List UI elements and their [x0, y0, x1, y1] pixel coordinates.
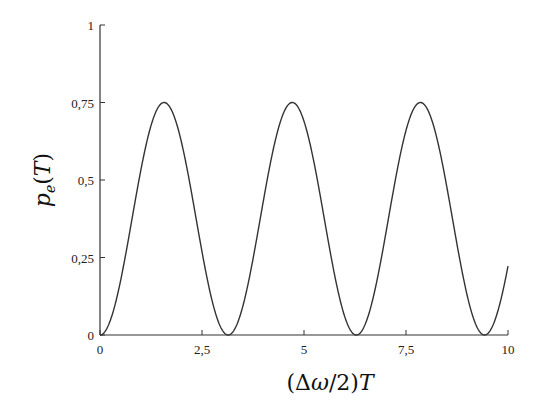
y-axis-label: pe(T): [30, 153, 58, 207]
x-tick-label: 10: [502, 342, 515, 357]
axes: [100, 25, 508, 335]
y-tick-label: 1: [88, 18, 95, 33]
x-tick-label: 7,5: [398, 342, 414, 357]
x-ticks: 02,557,510: [97, 330, 515, 357]
x-tick-label: 2,5: [194, 342, 210, 357]
series-line-pe: [100, 103, 508, 336]
y-tick-label: 0: [88, 328, 95, 343]
x-tick-label: 5: [301, 342, 308, 357]
y-tick-label: 0,25: [71, 251, 94, 266]
y-tick-label: 0,75: [71, 96, 94, 111]
x-axis-label: (Δω/2)T: [286, 370, 375, 395]
chart: 02,557,510 00,250,50,751 (Δω/2)T pe(T): [0, 0, 539, 414]
y-tick-label: 0,5: [78, 173, 94, 188]
x-tick-label: 0: [97, 342, 104, 357]
